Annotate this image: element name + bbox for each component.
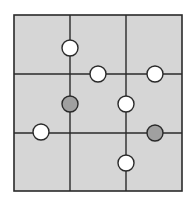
white-circle-icon (90, 66, 106, 82)
white-circle-icon (147, 66, 163, 82)
white-circle-icon (118, 96, 134, 112)
white-circle-icon (62, 40, 78, 56)
grid-frame (14, 15, 182, 191)
gray-circle-icon (147, 125, 163, 141)
white-circle-icon (118, 155, 134, 171)
gray-circle-icon (62, 96, 78, 112)
white-circle-icon (33, 124, 49, 140)
grid-puzzle-diagram (0, 0, 193, 204)
